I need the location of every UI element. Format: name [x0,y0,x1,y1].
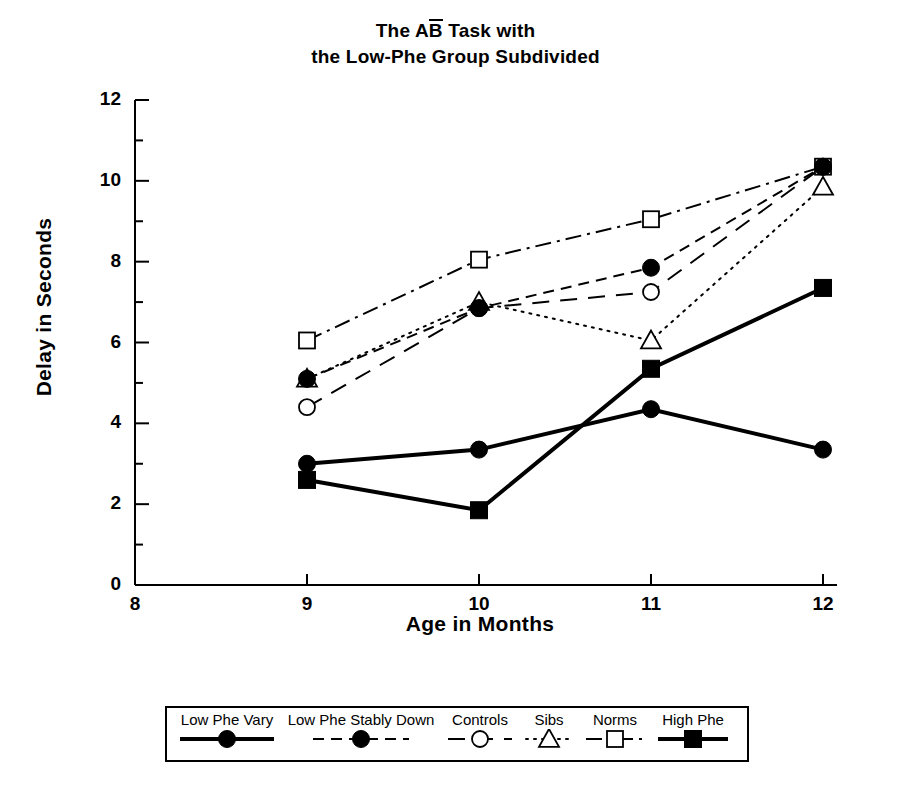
legend-item-sample [441,729,519,749]
legend-entries: Low Phe VaryLow Phe Stably DownControlsS… [167,708,747,760]
series-line-sibs [307,187,823,379]
legend-item-low-phe-stably-down[interactable]: Low Phe Stably Down [281,708,441,760]
legend-item-sample [519,729,579,749]
legend-item-sample [173,729,281,749]
legend-item-norms[interactable]: Norms [579,708,651,760]
data-point-open-triangle [813,177,833,195]
series-line-high-phe [307,288,823,510]
chart-figure: The AB Task with the Low-Phe Group Subdi… [0,0,911,799]
series-line-low-phe-stably-down [307,167,823,379]
series-path [307,167,823,341]
data-point-open-circle [472,731,488,747]
y-tick-label: 8 [75,250,121,272]
y-tick-label: 4 [75,411,121,433]
data-point-filled-circle [815,441,832,458]
y-tick-label: 2 [75,492,121,514]
legend-item-low-phe-vary[interactable]: Low Phe Vary [173,708,281,760]
series-path [307,409,823,464]
legend-item-label: Sibs [519,711,579,728]
data-point-filled-circle [299,370,316,387]
data-point-open-triangle [539,729,559,747]
data-point-filled-circle [471,441,488,458]
x-tick-label: 12 [803,593,843,615]
legend-item-label: High Phe [651,711,735,728]
data-point-open-square [299,332,315,348]
data-point-filled-circle [643,401,660,418]
series-path [307,167,823,379]
data-point-open-triangle [641,330,661,348]
legend-item-label: Low Phe Vary [173,711,281,728]
legend-item-label: Norms [579,711,651,728]
data-point-filled-square [299,471,316,488]
y-tick-label: 6 [75,331,121,353]
data-point-open-square [471,252,487,268]
data-point-filled-circle [219,731,236,748]
data-point-filled-circle [815,158,832,175]
legend-marker [472,731,488,747]
series-markers-low-phe-vary [299,401,832,473]
legend-item-controls[interactable]: Controls [441,708,519,760]
legend-marker [353,731,370,748]
data-point-open-square [643,211,659,227]
legend-item-sibs[interactable]: Sibs [519,708,579,760]
y-tick-label: 0 [75,573,121,595]
data-point-filled-square [643,360,660,377]
series-markers-low-phe-stably-down [299,158,832,387]
data-point-filled-square [471,502,488,519]
y-tick-label: 10 [75,169,121,191]
legend-item-sample [281,729,441,749]
x-tick-label: 11 [631,593,671,615]
chart-legend: Low Phe VaryLow Phe Stably DownControlsS… [165,706,749,762]
x-tick-label: 8 [115,593,155,615]
legend-marker [607,731,623,747]
series-line-norms [307,167,823,341]
data-point-open-circle [299,399,315,415]
data-point-filled-circle [471,300,488,317]
data-point-filled-square [815,279,832,296]
y-tick-label: 12 [75,88,121,110]
series-path [307,187,823,379]
legend-item-sample [579,729,651,749]
legend-marker [685,731,702,748]
legend-item-label: Controls [441,711,519,728]
x-tick-label: 10 [459,593,499,615]
series-line-low-phe-vary [307,409,823,464]
series-markers-high-phe [299,279,832,518]
legend-item-sample [651,729,735,749]
legend-marker [219,731,236,748]
plot-area [0,0,911,799]
data-point-filled-square [685,731,702,748]
data-point-filled-circle [299,455,316,472]
legend-marker [539,729,559,747]
data-point-open-square [607,731,623,747]
series-path [307,288,823,510]
legend-item-label: Low Phe Stably Down [281,711,441,728]
data-point-filled-circle [353,731,370,748]
data-point-open-circle [643,284,659,300]
legend-item-high-phe[interactable]: High Phe [651,708,735,760]
data-point-filled-circle [643,259,660,276]
series-markers-sibs [297,177,833,387]
x-tick-label: 9 [287,593,327,615]
